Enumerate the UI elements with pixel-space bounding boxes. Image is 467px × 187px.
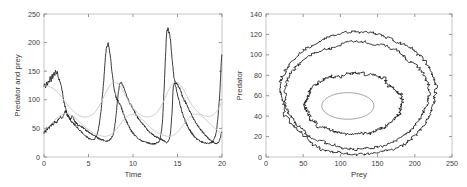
x-tick-label: 150 (372, 159, 384, 168)
x-axis-title: Time (124, 170, 141, 179)
series-group (44, 28, 222, 145)
series-group (279, 31, 437, 156)
x-tick-label: 20 (218, 159, 226, 168)
plot-frame (44, 14, 222, 157)
y-tick-label: 0 (36, 153, 40, 162)
y-tick-label: 80 (254, 71, 262, 80)
y-tick-label: 120 (250, 30, 262, 39)
y-axis-title: Predator and prey (13, 54, 22, 117)
x-tick-label: 250 (446, 159, 458, 168)
x-tick-label: 10 (129, 159, 137, 168)
y-tick-label: 140 (250, 10, 262, 19)
x-tick-label: 200 (409, 159, 421, 168)
series-phase-orbit-inner (303, 72, 403, 135)
series-phase-orbit-outer (279, 31, 437, 156)
plot-frame (266, 14, 452, 157)
series-prey-deterministic (44, 82, 222, 117)
y-tick-label: 150 (28, 67, 40, 76)
predator-prey-figure: 05101520050100150200250TimePredator and … (0, 0, 467, 187)
phase-portrait-plot: 050100150200250020406080100120140PreyPre… (234, 0, 467, 187)
time-series-plot: 05101520050100150200250TimePredator and … (0, 0, 234, 187)
x-tick-label: 0 (264, 159, 268, 168)
time-series-panel: 05101520050100150200250TimePredator and … (0, 0, 234, 187)
x-tick-label: 50 (299, 159, 307, 168)
y-tick-label: 250 (28, 10, 40, 19)
x-tick-label: 5 (87, 159, 91, 168)
y-tick-label: 100 (250, 50, 262, 59)
y-tick-label: 20 (254, 132, 262, 141)
y-tick-label: 50 (32, 124, 40, 133)
x-axis-title: Prey (351, 170, 367, 179)
x-tick-label: 15 (174, 159, 182, 168)
y-tick-label: 0 (258, 153, 262, 162)
series-predator-stochastic (44, 81, 222, 144)
x-tick-label: 100 (334, 159, 346, 168)
series-phase-limit-cycle (322, 93, 374, 120)
axes-group: 05101520050100150200250TimePredator and … (13, 10, 226, 179)
y-tick-label: 100 (28, 95, 40, 104)
y-axis-title: Predator (235, 70, 244, 100)
y-tick-label: 60 (254, 91, 262, 100)
x-tick-label: 0 (42, 159, 46, 168)
series-prey-stochastic (44, 28, 222, 145)
phase-portrait-panel: 050100150200250020406080100120140PreyPre… (234, 0, 467, 187)
y-tick-label: 200 (28, 38, 40, 47)
y-tick-label: 40 (254, 112, 262, 121)
